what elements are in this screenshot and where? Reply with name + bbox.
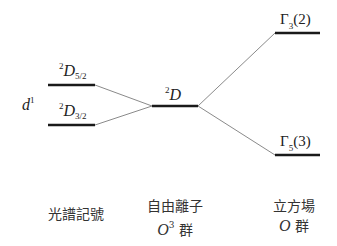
caption-free-ion-line1: 自由離子 <box>135 197 215 216</box>
label-gamma3-symbol: Γ <box>280 11 289 27</box>
caption-spectral-notation-line1: 光譜記號 <box>36 205 116 224</box>
label-d1: d1 <box>22 96 35 113</box>
caption-free-ion-group-text: 群 <box>174 222 192 238</box>
caption-free-ion-line2: O3 群 <box>135 216 215 240</box>
connector-2d-to-gamma3 <box>198 33 275 106</box>
caption-spectral-notation: 光譜記號 <box>36 205 116 224</box>
caption-cubic-field-group-symbol: O <box>279 217 291 234</box>
connector-2d-to-gamma5 <box>198 106 275 155</box>
label-gamma5: Γ5(3) <box>280 134 311 153</box>
connector-d52-to-2d <box>95 85 152 106</box>
label-2d32-letter: D <box>64 102 76 119</box>
label-2d32: 2D3/2 <box>59 102 87 119</box>
label-2d52-letter: D <box>64 62 76 79</box>
caption-cubic-field-line1: 立方場 <box>258 197 330 216</box>
label-gamma3-degeneracy: (2) <box>293 11 311 27</box>
label-d1-sup: 1 <box>30 95 35 105</box>
caption-free-ion-group-symbol: O <box>157 221 169 238</box>
label-2d-letter: D <box>170 86 182 103</box>
caption-cubic-field-group-text: 群 <box>291 218 309 234</box>
label-d1-base: d <box>22 96 30 113</box>
label-2d52-frac: 5/2 <box>75 71 87 81</box>
label-gamma5-degeneracy: (3) <box>293 133 311 149</box>
connector-d32-to-2d <box>95 106 152 125</box>
label-gamma5-symbol: Γ <box>280 133 289 149</box>
label-2d-free-ion: 2D <box>165 86 181 103</box>
caption-cubic-field-line2: O 群 <box>258 216 330 236</box>
caption-cubic-field: 立方場 O 群 <box>258 197 330 236</box>
label-2d32-frac: 3/2 <box>75 111 87 121</box>
caption-free-ion: 自由離子 O3 群 <box>135 197 215 240</box>
label-gamma3: Γ3(2) <box>280 12 311 31</box>
label-2d52: 2D5/2 <box>59 62 87 79</box>
